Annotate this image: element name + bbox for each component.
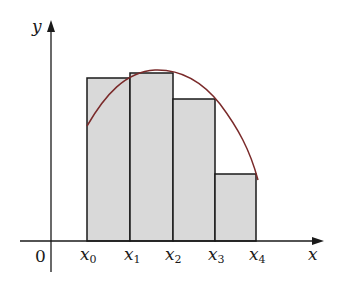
- y-axis-label: y: [32, 18, 42, 35]
- tick-label-x2: x2: [165, 246, 182, 265]
- rectangle-2: [130, 73, 173, 241]
- origin-label: 0: [35, 248, 46, 265]
- tick-label-x1: x1: [124, 246, 141, 265]
- riemann-diagram: [0, 0, 338, 283]
- tick-label-x4: x4: [249, 246, 266, 265]
- tick-label-x0: x0: [80, 246, 97, 265]
- rectangles: [87, 73, 256, 241]
- y-axis-arrow-icon: [47, 20, 55, 32]
- rectangle-3: [173, 99, 215, 241]
- x-axis-label: x: [308, 246, 318, 263]
- rectangle-4: [215, 174, 256, 241]
- tick-label-x3: x3: [208, 246, 225, 265]
- rectangle-1: [87, 78, 130, 241]
